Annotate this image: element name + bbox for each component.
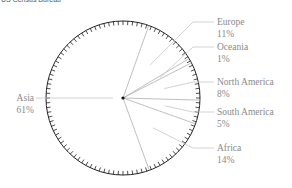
tick-mark <box>185 137 188 139</box>
tick-mark <box>82 160 84 163</box>
tick-mark <box>56 61 60 63</box>
tick-mark <box>176 45 179 48</box>
tick-mark <box>109 170 110 174</box>
tick-mark <box>150 166 151 170</box>
tick-mark <box>95 26 96 30</box>
tick-mark <box>90 28 92 32</box>
tick-mark <box>141 23 142 27</box>
tick-mark <box>132 170 133 174</box>
tick-mark <box>95 166 96 170</box>
tick-mark <box>187 133 191 135</box>
tick-mark <box>51 70 55 71</box>
slice-label: Asia <box>17 93 35 103</box>
tick-mark <box>74 154 77 157</box>
tick-mark <box>82 33 84 36</box>
tick-mark <box>187 61 191 63</box>
tick-mark <box>86 162 88 166</box>
slice-value-label: 8% <box>217 89 230 99</box>
tick-mark <box>162 33 164 36</box>
tick-mark <box>176 148 179 151</box>
tick-mark <box>195 107 199 108</box>
tick-mark <box>58 137 61 139</box>
tick-mark <box>51 125 55 126</box>
tick-mark <box>104 169 105 173</box>
tick-mark <box>150 26 151 30</box>
tick-mark <box>99 167 100 171</box>
tick-mark <box>158 162 160 166</box>
tick-mark <box>61 141 64 143</box>
tick-mark <box>53 65 57 67</box>
slice-value-label: 11% <box>217 29 234 39</box>
tick-mark <box>67 148 70 151</box>
slice-boundary <box>123 59 189 98</box>
tick-mark <box>195 84 199 85</box>
tick-mark <box>194 79 198 80</box>
slice-label: Europe <box>217 17 244 27</box>
tick-mark <box>67 45 70 48</box>
tick-mark <box>70 151 73 154</box>
leader-line <box>164 82 214 89</box>
tick-mark <box>141 169 142 173</box>
tick-mark <box>113 22 114 26</box>
tick-mark <box>166 157 168 160</box>
slice-value-label: 1% <box>217 54 230 64</box>
slice-label: South America <box>217 107 275 117</box>
tick-mark <box>47 107 51 108</box>
tick-mark <box>192 74 196 75</box>
tick-mark <box>137 170 138 174</box>
slice-value-label: 61% <box>17 105 35 115</box>
tick-mark <box>78 157 80 160</box>
tick-mark <box>132 22 133 26</box>
tick-mark <box>48 79 52 80</box>
tick-mark <box>173 42 176 45</box>
center-dot <box>121 96 124 99</box>
tick-mark <box>58 57 61 59</box>
tick-mark <box>194 116 198 117</box>
tick-mark <box>74 39 77 42</box>
tick-mark <box>170 39 173 42</box>
tick-mark <box>158 31 160 35</box>
slice-value-label: 5% <box>217 119 230 129</box>
slice-label: Oceania <box>217 42 249 52</box>
tick-mark <box>64 145 67 148</box>
tick-mark <box>189 65 193 67</box>
tick-mark <box>53 129 57 131</box>
tick-mark <box>162 160 164 163</box>
tick-mark <box>70 42 73 45</box>
tick-mark <box>179 145 182 148</box>
leader-line <box>165 106 214 112</box>
tick-mark <box>192 121 196 122</box>
tick-mark <box>48 116 52 117</box>
tick-mark <box>189 129 193 131</box>
tick-mark <box>104 23 105 27</box>
tick-mark <box>154 28 156 32</box>
leader-line <box>150 22 214 65</box>
slice-value-label: 14% <box>217 155 235 165</box>
tick-mark <box>179 49 182 52</box>
tick-mark <box>78 36 80 39</box>
tick-mark <box>191 70 195 71</box>
tick-mark <box>185 57 188 59</box>
tick-mark <box>109 22 110 26</box>
tick-mark <box>90 164 92 168</box>
tick-mark <box>191 125 195 126</box>
slice-label: North America <box>217 77 275 87</box>
slice-label: Africa <box>217 143 242 153</box>
slice-boundary <box>123 98 200 100</box>
pie-chart: Asia61%Europe11%Oceania1%North America8%… <box>0 0 292 188</box>
tick-mark <box>47 84 51 85</box>
tick-mark <box>47 112 51 113</box>
tick-mark <box>173 151 176 154</box>
tick-mark <box>170 154 173 157</box>
leader-line <box>160 47 214 77</box>
tick-mark <box>64 49 67 52</box>
tick-mark <box>195 88 199 89</box>
tick-mark <box>146 167 147 171</box>
tick-mark <box>50 121 54 122</box>
tick-mark <box>61 53 64 55</box>
tick-mark <box>99 25 100 29</box>
tick-mark <box>146 25 147 29</box>
slice-boundary <box>123 98 196 124</box>
tick-mark <box>47 88 51 89</box>
tick-mark <box>50 74 54 75</box>
